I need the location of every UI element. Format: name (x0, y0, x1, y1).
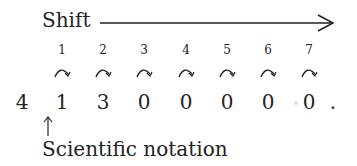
curved-arrow-right-icon (52, 64, 72, 80)
digit: 0 (134, 90, 154, 114)
print-smudge (294, 101, 298, 105)
curved-arrow-right-icon (258, 64, 278, 80)
digit: 3 (93, 90, 113, 114)
scientific-notation-label: Scientific notation (42, 137, 228, 161)
curved-arrow-right-icon (217, 64, 237, 80)
shift-label: Shift (42, 8, 90, 32)
digit: 0 (299, 90, 319, 114)
step-number: 4 (176, 43, 196, 57)
step-number: 2 (93, 43, 113, 57)
digit: 4 (12, 90, 32, 114)
step-number: 7 (299, 43, 319, 57)
digit: 0 (258, 90, 278, 114)
step-number: 3 (134, 43, 154, 57)
curved-arrow-right-icon (299, 64, 319, 80)
step-number: 6 (258, 43, 278, 57)
curved-arrow-right-icon (176, 64, 196, 80)
curved-arrow-right-icon (134, 64, 154, 80)
decimal-point: . (323, 90, 343, 114)
digit: 1 (52, 90, 72, 114)
curved-arrow-right-icon (93, 64, 113, 80)
step-number: 1 (52, 43, 72, 57)
digit: 0 (176, 90, 196, 114)
step-number: 5 (217, 43, 237, 57)
digit: 0 (217, 90, 237, 114)
right-arrow-icon (98, 14, 336, 34)
up-arrow-icon (42, 115, 54, 137)
